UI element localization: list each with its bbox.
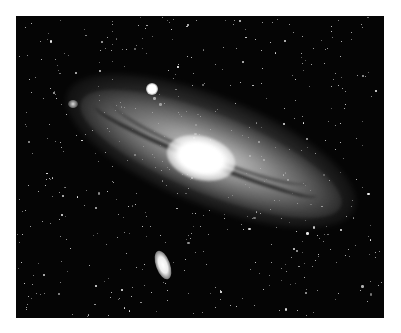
star [142,269,143,270]
star [193,73,194,74]
star [345,91,346,92]
star [119,298,120,299]
star [367,301,368,302]
star [152,36,153,37]
star [72,314,73,315]
star [142,226,143,227]
star [317,235,318,236]
star [306,315,307,316]
star [61,147,62,148]
star [379,251,380,252]
star [29,79,30,80]
star [61,261,62,262]
star [254,305,255,306]
star [48,33,49,34]
star [270,42,271,43]
star [324,63,325,64]
star [340,56,341,57]
star [262,68,263,69]
star [66,114,67,115]
star [124,66,125,67]
star [261,50,262,51]
star [162,17,163,18]
star [60,236,61,237]
star [351,39,352,40]
star [338,20,339,21]
star [191,233,192,234]
star [126,253,127,254]
star [303,122,305,124]
star [293,248,295,250]
star [84,205,85,206]
star [279,310,280,311]
star [57,65,58,66]
star [243,229,244,230]
star [17,234,18,235]
star [146,25,148,27]
star [375,90,377,92]
star [55,141,56,142]
star [98,161,99,162]
star [75,72,77,74]
star [351,32,352,33]
star [123,217,124,218]
star [202,84,204,86]
star [95,285,97,287]
star [151,292,152,293]
star [165,283,166,284]
star [58,70,59,71]
star [81,140,83,142]
star [192,213,193,214]
star [112,61,113,62]
star [220,290,221,291]
star [140,17,141,18]
star [353,217,355,219]
star [41,59,42,60]
star [344,108,345,109]
star [156,311,157,312]
star [187,24,189,26]
star [327,234,329,236]
star [281,268,282,269]
star [338,293,339,294]
star [285,308,287,310]
star [50,40,52,42]
star [186,26,188,28]
star [110,297,111,298]
star [193,313,194,314]
star [135,204,136,205]
star [261,83,262,84]
star [271,262,272,263]
star [313,48,314,49]
star [167,300,168,301]
star [195,213,196,214]
star [371,96,372,97]
star [118,299,119,300]
star [21,262,22,263]
star [88,314,90,316]
star [93,235,94,236]
star [118,214,119,215]
star [336,262,337,263]
star [331,108,332,109]
star [95,207,97,209]
star [225,20,226,21]
star [203,215,204,216]
star [360,290,361,291]
star [375,252,376,253]
star [309,86,310,87]
star [296,250,298,252]
star [272,22,273,23]
star [362,27,363,28]
star [220,291,222,293]
star [24,283,25,284]
star [145,212,146,213]
star [289,24,291,26]
star [46,179,47,180]
star [186,239,187,240]
star [89,265,90,266]
star [61,104,62,105]
star [100,50,101,51]
star [330,249,331,250]
star [321,40,322,41]
